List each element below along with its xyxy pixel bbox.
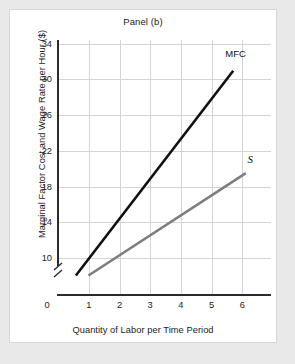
plot-area: 10 14 18 22 26 30 34 0 1 2 3 4 5 6 MFC S — [57, 40, 271, 296]
series-canvas — [57, 40, 271, 296]
x-tick-label: 4 — [178, 300, 183, 310]
x-tick-label: 1 — [86, 300, 91, 310]
x-tick-label: 6 — [240, 300, 245, 310]
series-label-mfc: MFC — [225, 48, 246, 59]
chart-figure: Panel (b) Marginal Factor Cost and Wage … — [10, 10, 276, 342]
x-axis-label: Quantity of Labor per Time Period — [10, 325, 276, 335]
y-tick-label: 10 — [42, 253, 52, 263]
series-line-s — [88, 173, 245, 275]
x-tick-label: 2 — [117, 300, 122, 310]
y-tick-label: 30 — [42, 74, 52, 84]
chart-title: Panel (b) — [10, 16, 276, 27]
x-tick-label: 0 — [44, 300, 49, 310]
series-line-mfc — [76, 71, 233, 276]
y-tick-label: 34 — [42, 39, 52, 49]
y-tick-label: 18 — [42, 182, 52, 192]
y-tick-label: 14 — [42, 217, 52, 227]
x-tick-label: 3 — [148, 300, 153, 310]
series-label-s: S — [247, 153, 253, 165]
figure-card: Panel (b) Marginal Factor Cost and Wage … — [9, 9, 277, 343]
y-tick-label: 22 — [42, 146, 52, 156]
y-tick-label: 26 — [42, 110, 52, 120]
x-tick-label: 5 — [209, 300, 214, 310]
